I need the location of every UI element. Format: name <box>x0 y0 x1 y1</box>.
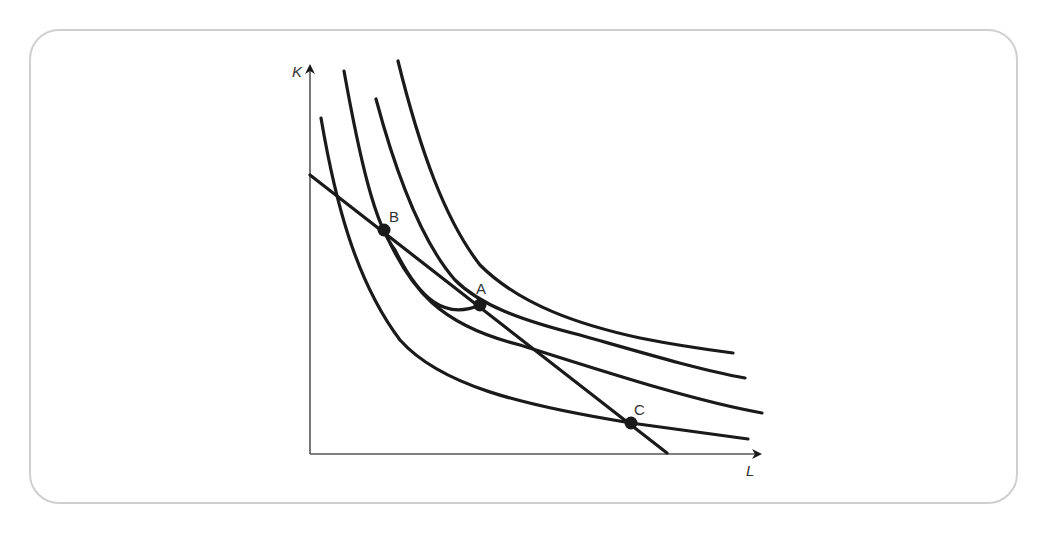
point-b <box>378 224 391 237</box>
isoquant-diagram: K L B A C <box>0 0 1046 533</box>
point-b-label: B <box>389 208 399 225</box>
isoquant-3 <box>376 99 745 378</box>
k-axis-label: K <box>292 63 303 80</box>
point-a-label: A <box>476 280 486 297</box>
isocost-line <box>310 175 667 453</box>
point-a <box>474 299 487 312</box>
point-c-label: C <box>634 401 645 418</box>
point-c <box>625 417 638 430</box>
isoquant-2 <box>344 71 762 413</box>
isoquant-1 <box>321 118 748 439</box>
l-axis-label: L <box>746 462 754 479</box>
